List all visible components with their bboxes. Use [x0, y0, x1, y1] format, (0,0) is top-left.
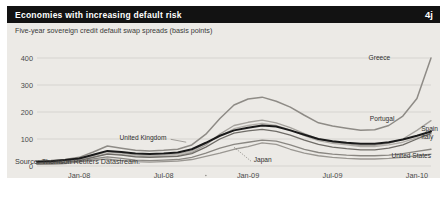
series-label-greece: Greece [369, 54, 391, 61]
y-axis-tick-300: 300 [21, 81, 33, 90]
y-axis-tick-200: 200 [21, 108, 33, 117]
y-axis-tick-100: 100 [21, 135, 33, 144]
series-label-united-kingdom: United Kingdom [120, 134, 167, 142]
y-axis-tick-400: 400 [21, 54, 33, 63]
status-badge: 4j [425, 9, 440, 20]
x-axis-tick-jul-08: Jul-08 [154, 171, 174, 179]
series-label-japan: Japan [254, 156, 272, 164]
series-label-portugal: Portugal [370, 115, 395, 123]
axis-marker-dot [205, 175, 207, 177]
figure-panel: Economies with increasing default risk 4… [7, 6, 440, 178]
x-axis-tick-jan-10: Jan-10 [406, 171, 428, 179]
x-axis-tick-jul-09: Jul-09 [323, 171, 343, 179]
united-kingdom-leader-line [171, 139, 187, 142]
chart-subtitle: Five-year sovereign credit default swap … [15, 26, 212, 35]
x-axis-tick-jan-09: Jan-09 [237, 171, 259, 179]
chart-title-bar: Economies with increasing default risk 4… [7, 6, 440, 23]
series-label-united-states: United States [391, 152, 431, 159]
x-axis-tick-jan-08: Jan-08 [68, 171, 90, 179]
japan-leader-line [234, 147, 251, 161]
series-label-italy: Italy [421, 133, 434, 141]
page-title: Economies with increasing default risk [7, 10, 182, 20]
source-note: Source: Thomson Reuters Datastream. [15, 157, 140, 166]
